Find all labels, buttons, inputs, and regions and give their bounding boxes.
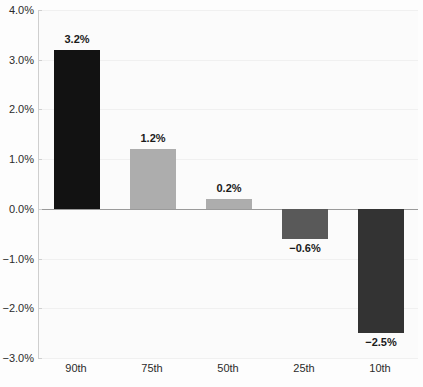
bar[interactable] — [130, 149, 176, 209]
y-axis-tick-mark — [38, 109, 42, 110]
bar[interactable] — [282, 209, 328, 239]
y-axis-tick-mark — [38, 10, 42, 11]
y-axis-tick-label: −1.0% — [0, 253, 34, 265]
bar-chart: 4.0%3.0%2.0%1.0%0.0%−1.0%−2.0%−3.0% 3.2%… — [0, 0, 423, 387]
bar[interactable] — [54, 50, 100, 209]
y-axis-tick-mark — [38, 159, 42, 160]
y-axis-tick-mark — [38, 308, 42, 309]
bar-group: 1.2% — [115, 10, 191, 358]
y-axis-tick-mark — [38, 259, 42, 260]
bar-group: 3.2% — [39, 10, 115, 358]
bar-value-label: 3.2% — [39, 33, 115, 45]
y-axis-tick-label: 0.0% — [0, 203, 34, 215]
x-axis-tick-label: 75th — [141, 362, 162, 374]
y-axis-tick-label: 4.0% — [0, 4, 34, 16]
y-axis-tick-label: −3.0% — [0, 352, 34, 364]
plot-area: 3.2%1.2%0.2%−0.6%−2.5% — [38, 10, 418, 358]
y-axis-tick-mark — [38, 209, 42, 210]
y-axis-tick-mark — [38, 358, 42, 359]
x-axis-tick-label: 10th — [369, 362, 390, 374]
bar-group: −0.6% — [267, 10, 343, 358]
x-axis-tick-label: 25th — [293, 362, 314, 374]
x-axis: 90th75th50th25th10th — [38, 360, 417, 382]
gridline — [39, 358, 418, 359]
bar-value-label: 1.2% — [115, 132, 191, 144]
y-axis-tick-label: −2.0% — [0, 302, 34, 314]
bar[interactable] — [358, 209, 404, 333]
y-axis-tick-label: 2.0% — [0, 103, 34, 115]
y-axis: 4.0%3.0%2.0%1.0%0.0%−1.0%−2.0%−3.0% — [0, 10, 34, 358]
bar[interactable] — [206, 199, 252, 209]
bar-value-label: −0.6% — [267, 242, 343, 254]
bar-value-label: −2.5% — [343, 336, 419, 348]
bar-value-label: 0.2% — [191, 182, 267, 194]
y-axis-tick-label: 3.0% — [0, 54, 34, 66]
x-axis-tick-label: 90th — [65, 362, 86, 374]
bar-group: −2.5% — [343, 10, 419, 358]
y-axis-tick-mark — [38, 60, 42, 61]
y-axis-tick-label: 1.0% — [0, 153, 34, 165]
x-axis-tick-label: 50th — [217, 362, 238, 374]
bar-group: 0.2% — [191, 10, 267, 358]
